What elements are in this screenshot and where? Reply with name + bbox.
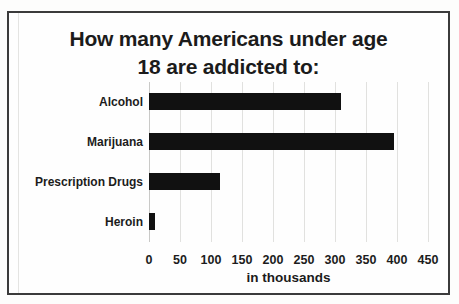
chart-title-line2: 18 are addicted to: — [9, 53, 448, 81]
bar-heroin — [149, 213, 155, 230]
x-tick-label-200: 200 — [256, 253, 290, 267]
plot-area — [149, 82, 428, 242]
category-label-marijuana: Marijuana — [9, 134, 143, 150]
x-tick-label-50: 50 — [163, 253, 197, 267]
page: How many Americans under age 18 are addi… — [0, 0, 459, 304]
x-tick-label-350: 350 — [349, 253, 383, 267]
chart-frame: How many Americans under age 18 are addi… — [7, 11, 450, 295]
x-tick-label-250: 250 — [287, 253, 321, 267]
x-tick-label-300: 300 — [318, 253, 352, 267]
x-tick-label-0: 0 — [132, 253, 166, 267]
category-label-heroin: Heroin — [9, 214, 143, 230]
x-tick-label-100: 100 — [194, 253, 228, 267]
x-tick-label-450: 450 — [411, 253, 445, 267]
gridline-450 — [428, 82, 429, 242]
x-tick-label-400: 400 — [380, 253, 414, 267]
bar-row-heroin — [149, 202, 428, 242]
bar-row-marijuana — [149, 122, 428, 162]
x-axis-title: in thousands — [149, 270, 428, 285]
category-label-alcohol: Alcohol — [9, 94, 143, 110]
chart-title-line1: How many Americans under age — [9, 25, 448, 53]
bar-row-alcohol — [149, 82, 428, 122]
x-tick-label-150: 150 — [225, 253, 259, 267]
category-label-prescription-drugs: Prescription Drugs — [9, 174, 143, 190]
chart-title: How many Americans under age 18 are addi… — [9, 25, 448, 81]
bar-alcohol — [149, 93, 341, 110]
bar-marijuana — [149, 133, 394, 150]
bar-prescription-drugs — [149, 173, 220, 190]
bar-row-prescription-drugs — [149, 162, 428, 202]
